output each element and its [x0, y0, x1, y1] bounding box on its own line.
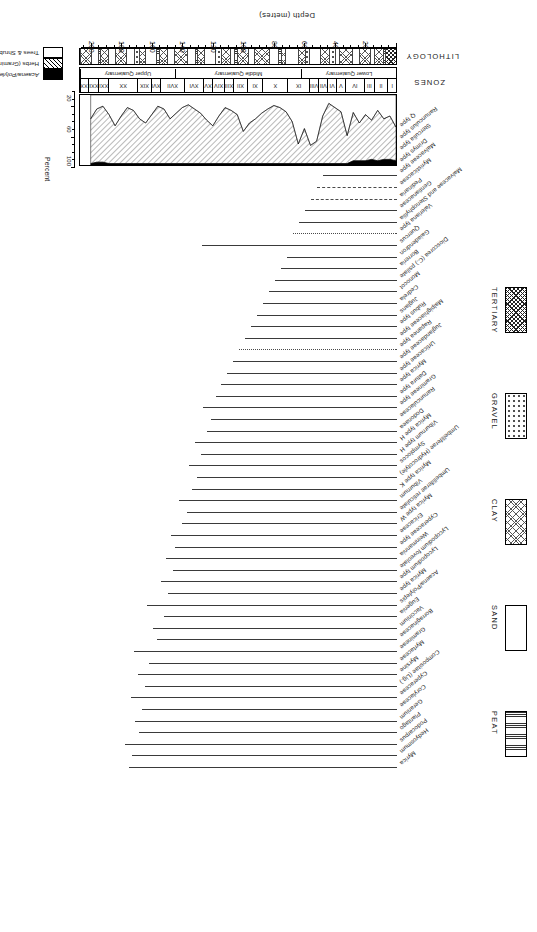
lithology-segment-clay — [359, 49, 370, 64]
taxon-range-bar — [202, 245, 397, 246]
percent-minor-tick — [73, 159, 76, 160]
percent-tick-label: 100 — [66, 156, 72, 166]
taxon-range-bar — [157, 639, 397, 640]
lithology-title: LITHOLOGY — [406, 52, 459, 61]
zone-cell: IV — [345, 79, 364, 92]
zone-cell: XIV — [212, 79, 225, 92]
lithology-segment-clay — [197, 49, 203, 64]
taxon-range-bar — [161, 581, 397, 582]
zone-era-row: Lower QuaternaryMiddle QuaternaryUpper Q… — [79, 67, 397, 78]
lithology-segment-peat — [98, 49, 100, 64]
lithology-segment-sand — [269, 49, 278, 64]
lithology-segment-clay — [298, 49, 304, 64]
lithology-segment-sand — [167, 49, 173, 64]
lithology-segment-tertiary — [385, 49, 396, 64]
taxon-range-bar — [153, 628, 397, 629]
depth-minor-tick — [381, 45, 382, 48]
depth-minor-tick — [289, 45, 290, 48]
taxon-range-bar — [175, 547, 397, 548]
taxon-range-bar — [245, 338, 397, 339]
legend-swatch-white — [43, 47, 63, 58]
depth-axis: 20406080100120140160180200 — [79, 45, 397, 48]
taxon-range-bar — [187, 512, 397, 513]
depth-minor-tick — [396, 43, 397, 48]
lithology-segment-peat — [278, 49, 281, 64]
lithology-segment-sand — [108, 49, 114, 64]
depth-tick-label: 60 — [301, 41, 308, 49]
depth-minor-tick — [98, 45, 99, 48]
lithology-segment-clay — [221, 49, 230, 64]
depth-minor-tick — [320, 45, 321, 48]
lithology-segment-sand — [309, 49, 320, 64]
taxon-range-bar — [149, 663, 397, 664]
zone-era-cell: Middle Quaternary — [175, 69, 301, 78]
taxon-range-bar — [134, 651, 397, 652]
legend-item: Acaena/Polylepis — [5, 69, 63, 80]
depth-minor-tick — [167, 45, 168, 48]
lithology-legend-label: SAND — [490, 605, 499, 631]
percent-axis-title: Percent — [44, 157, 51, 181]
taxon-range-bar — [239, 349, 397, 350]
lithology-segment-sand — [335, 49, 339, 64]
depth-tick-label: 100 — [240, 41, 247, 53]
zone-cell: XI — [247, 79, 263, 92]
legend-item: Herbs (Gramineae) — [5, 58, 63, 69]
zone-era-cell: Lower Quaternary — [301, 69, 396, 78]
taxon-range-bar — [129, 767, 397, 768]
lithology-segment-peat — [156, 49, 159, 64]
taxon-range-bar — [195, 442, 397, 443]
zone-cell: VI — [327, 79, 336, 92]
taxon-range-bar — [305, 210, 397, 211]
depth-tick-label: 160 — [149, 41, 156, 53]
taxon-range-bar — [201, 454, 397, 455]
zones-panel: IIIIIIIVVVIVIIVIIIIXXXIXIIXIIIXIVXVXVIXV… — [79, 67, 397, 93]
taxon-range-bar — [182, 523, 397, 524]
lithology-segment-clay — [254, 49, 269, 64]
lithology-segment-clay — [320, 49, 329, 64]
legend-label: Trees & Shrubs — [0, 50, 39, 57]
depth-minor-tick — [343, 45, 344, 48]
lithology-segment-gravel — [305, 49, 309, 64]
depth-minor-tick — [236, 45, 237, 48]
depth-minor-tick — [228, 45, 229, 48]
taxon-range-bar — [131, 697, 397, 698]
lithology-legend-swatch-sand — [505, 605, 527, 651]
zone-cell: XIII — [224, 79, 233, 92]
lithology-segment-peat — [383, 49, 386, 64]
taxon-range-bar — [164, 616, 397, 617]
taxon-range-bar — [293, 233, 397, 234]
summary-svg — [80, 95, 396, 165]
taxon-range-bar — [179, 500, 397, 501]
zone-cell: VII — [318, 79, 327, 92]
percent-tick-label: 20 — [66, 95, 72, 102]
depth-minor-tick — [136, 45, 137, 48]
zone-cell: XVIII — [151, 79, 161, 92]
zone-cell: III — [364, 79, 374, 92]
lithology-legend-swatch-clay — [505, 499, 527, 545]
taxon-range-bar — [147, 605, 397, 606]
lithology-segment-sand — [285, 49, 298, 64]
taxon-range-bar — [299, 222, 397, 223]
depth-minor-tick — [198, 45, 199, 48]
lithology-segment-clay — [159, 49, 168, 64]
taxon-range-bar — [317, 187, 397, 188]
lithology-segment-clay — [281, 49, 285, 64]
taxon-range-bar — [216, 396, 397, 397]
percent-axis: 2060100 — [53, 90, 75, 170]
zone-cell: XII — [233, 79, 247, 92]
lithology-column — [79, 48, 397, 65]
legend-swatch-hatch — [43, 58, 63, 69]
taxon-range-bar — [168, 593, 397, 594]
legend-item: Trees & Shrubs — [5, 47, 63, 58]
depth-minor-tick — [388, 45, 389, 48]
depth-tick-label: 20 — [362, 41, 369, 49]
taxon-range-bar — [257, 315, 397, 316]
taxon-range-bar — [142, 709, 397, 710]
zone-cell: XXIII — [80, 79, 88, 92]
depth-minor-tick — [129, 45, 130, 48]
depth-minor-tick — [251, 45, 252, 48]
depth-minor-tick — [266, 45, 267, 48]
depth-minor-tick — [114, 45, 115, 48]
percent-minor-tick — [73, 152, 76, 153]
depth-minor-tick — [159, 45, 160, 48]
